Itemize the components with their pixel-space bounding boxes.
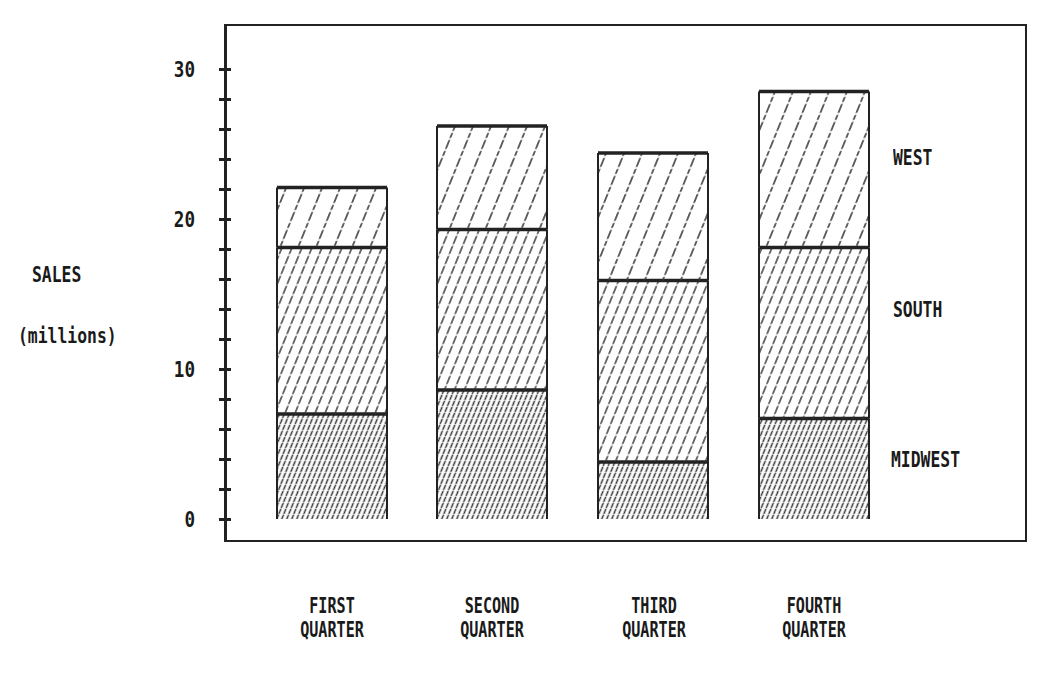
y-axis-line (224, 24, 226, 542)
y-tick-label-0: 0 (163, 507, 195, 532)
x-label-q2: SECOND QUARTER (442, 594, 543, 642)
legend-west: WEST (893, 148, 932, 169)
y-tick-label-30: 30 (163, 57, 195, 82)
y-tick-label-10: 10 (163, 357, 195, 382)
legend-south: SOUTH (893, 300, 942, 321)
y-tick-label-20: 20 (163, 207, 195, 232)
x-label-q3: THIRD QUARTER (604, 594, 705, 642)
legend-midwest: MIDWEST (891, 450, 960, 471)
y-axis-label-line1: SALES (32, 265, 81, 286)
x-label-q4: FOURTH QUARTER (764, 594, 865, 642)
x-label-q1: FIRST QUARTER (282, 594, 383, 642)
y-axis-label-line2: (millions) (18, 326, 117, 347)
